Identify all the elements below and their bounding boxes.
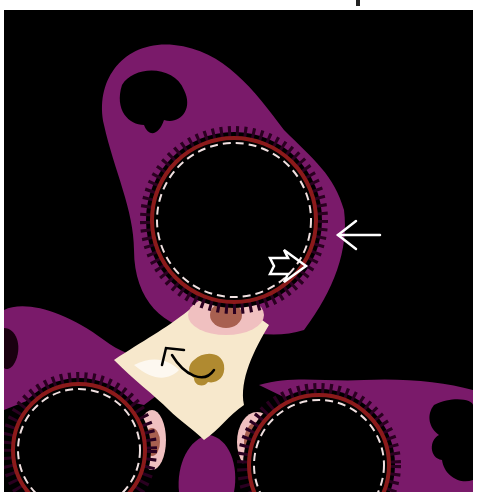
cropped-text-fragment [356, 0, 360, 6]
alveoli-illustration [4, 10, 473, 492]
figure-frame [4, 10, 473, 492]
alveolus-upper [146, 132, 322, 308]
bottom-tissue [179, 435, 236, 492]
